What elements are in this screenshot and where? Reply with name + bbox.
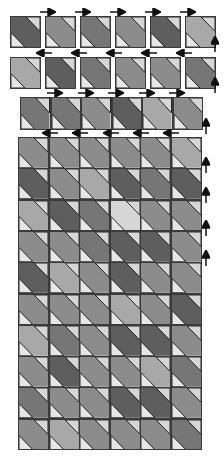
grid-block xyxy=(18,387,49,419)
grid-block xyxy=(140,294,171,326)
grid-block xyxy=(140,231,171,263)
grid-block xyxy=(79,168,110,200)
pressing-arrow-left-icon xyxy=(176,49,192,57)
grid-block xyxy=(110,325,141,357)
grid-block xyxy=(171,200,202,232)
grid-block xyxy=(18,294,49,326)
row-3-block xyxy=(173,97,204,130)
grid-block xyxy=(171,387,202,419)
row-2-block xyxy=(10,57,41,89)
grid-block xyxy=(49,168,80,200)
row-1-block xyxy=(10,16,41,48)
pressing-arrow-left-icon xyxy=(42,129,58,137)
pressing-arrow-left-icon xyxy=(71,49,87,57)
row-2-block xyxy=(45,57,76,89)
pressing-arrow-left-icon xyxy=(141,49,157,57)
pressing-arrow-left-icon xyxy=(163,129,179,137)
pressing-arrow-right-icon xyxy=(108,89,124,97)
grid-block xyxy=(79,262,110,294)
grid-block xyxy=(18,168,49,200)
pressing-arrow-left-icon xyxy=(72,129,88,137)
pressing-arrow-right-icon xyxy=(169,89,185,97)
grid-block xyxy=(110,262,141,294)
pressing-arrow-right-icon xyxy=(40,8,56,16)
row-2-block xyxy=(150,57,181,89)
grid-block xyxy=(49,294,80,326)
grid-block xyxy=(140,137,171,169)
grid-block xyxy=(140,387,171,419)
pressing-arrow-up-icon xyxy=(202,118,210,134)
pressing-arrow-right-icon xyxy=(47,89,63,97)
grid-block xyxy=(110,168,141,200)
grid-block xyxy=(171,356,202,388)
grid-block xyxy=(49,419,80,451)
grid-block xyxy=(49,387,80,419)
pressing-arrow-up-icon xyxy=(211,77,219,93)
pressing-arrow-left-icon xyxy=(106,49,122,57)
pressing-arrow-right-icon xyxy=(145,8,161,16)
grid-block xyxy=(171,231,202,263)
grid-block xyxy=(18,137,49,169)
grid-block xyxy=(110,137,141,169)
grid-block xyxy=(140,356,171,388)
grid-block xyxy=(171,325,202,357)
row-3-block xyxy=(51,97,82,130)
grid-block xyxy=(110,419,141,451)
grid-block xyxy=(140,262,171,294)
grid-block xyxy=(18,356,49,388)
grid-block xyxy=(140,200,171,232)
pressing-arrow-up-icon xyxy=(202,157,210,173)
grid-block xyxy=(49,356,80,388)
row-2-block xyxy=(115,57,146,89)
quilt-diagram xyxy=(0,0,224,462)
pressing-arrow-right-icon xyxy=(180,8,196,16)
row-1-block xyxy=(115,16,146,48)
pressing-arrow-left-icon xyxy=(36,49,52,57)
grid-block xyxy=(79,325,110,357)
grid-block xyxy=(171,168,202,200)
grid-block xyxy=(18,325,49,357)
grid-block xyxy=(18,231,49,263)
pressing-arrow-right-icon xyxy=(139,89,155,97)
grid-block xyxy=(49,200,80,232)
grid-block xyxy=(110,231,141,263)
grid-block xyxy=(171,262,202,294)
grid-block xyxy=(140,419,171,451)
grid-block xyxy=(171,294,202,326)
pressing-arrow-up-icon xyxy=(202,220,210,236)
grid-block xyxy=(49,262,80,294)
grid-block xyxy=(18,200,49,232)
grid-block xyxy=(140,168,171,200)
pressing-arrow-up-icon xyxy=(211,36,219,52)
grid-block xyxy=(171,419,202,451)
row-3-block xyxy=(81,97,112,130)
grid-block xyxy=(110,356,141,388)
pressing-arrow-right-icon xyxy=(110,8,126,16)
grid-block xyxy=(79,387,110,419)
pressing-arrow-up-icon xyxy=(202,250,210,266)
grid-block xyxy=(49,137,80,169)
pressing-arrow-left-icon xyxy=(133,129,149,137)
grid-block xyxy=(79,137,110,169)
grid-block xyxy=(171,137,202,169)
row-1-block xyxy=(150,16,181,48)
grid-block xyxy=(79,419,110,451)
grid-block xyxy=(79,231,110,263)
grid-block xyxy=(79,200,110,232)
row-3-block xyxy=(20,97,51,130)
grid-block xyxy=(110,200,141,232)
grid-block xyxy=(110,387,141,419)
grid-block xyxy=(79,294,110,326)
grid-block xyxy=(140,325,171,357)
grid-block xyxy=(110,294,141,326)
grid-block xyxy=(18,419,49,451)
pressing-arrow-up-icon xyxy=(202,187,210,203)
grid-block xyxy=(49,325,80,357)
row-1-block xyxy=(45,16,76,48)
pressing-arrow-left-icon xyxy=(103,129,119,137)
pressing-arrow-right-icon xyxy=(78,89,94,97)
grid-block xyxy=(49,231,80,263)
pressing-arrow-right-icon xyxy=(75,8,91,16)
row-2-block xyxy=(80,57,111,89)
row-3-block xyxy=(112,97,143,130)
